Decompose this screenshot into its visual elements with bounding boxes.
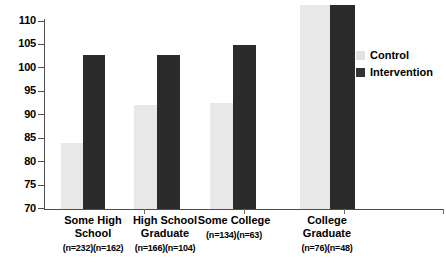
control-swatch-icon	[356, 51, 365, 60]
category-counts: (n=76)(n=48)	[268, 242, 386, 255]
legend-item-intervention: Intervention	[356, 64, 446, 81]
bar-control-high-school-graduate	[134, 105, 157, 209]
x-axis-category-labels: Some High School (n=232)(n=162) High Sch…	[44, 214, 446, 278]
bar-chart: 110 105 100 95 90 85 80 75 70	[0, 0, 446, 279]
y-axis-tick-label: 90	[2, 109, 36, 120]
y-axis-tick-label: 80	[2, 156, 36, 167]
x-axis-category-college-graduate: College Graduate (n=76)(n=48)	[268, 214, 386, 255]
bar-intervention-college-graduate	[330, 5, 355, 209]
legend-label-intervention: Intervention	[370, 67, 433, 78]
bar-control-some-college	[210, 103, 233, 209]
y-axis-tick-label: 110	[2, 15, 36, 26]
intervention-swatch-icon	[356, 68, 365, 77]
y-axis-labels: 110 105 100 95 90 85 80 75 70	[0, 0, 36, 279]
legend-label-control: Control	[370, 50, 409, 61]
category-name: College Graduate	[268, 214, 386, 240]
y-axis-tick-label: 85	[2, 132, 36, 143]
bars-layer	[44, 0, 446, 209]
y-axis-tick-label: 95	[2, 85, 36, 96]
y-axis-tick-label: 70	[2, 203, 36, 214]
y-axis-tick-label: 105	[2, 38, 36, 49]
bar-control-some-high-school	[61, 143, 83, 209]
chart-legend: Control Intervention	[356, 47, 446, 81]
category-counts: (n=166)(n=104)	[106, 242, 224, 255]
legend-item-control: Control	[356, 47, 446, 64]
bar-intervention-high-school-graduate	[157, 55, 180, 209]
bar-intervention-some-college	[233, 45, 256, 209]
bar-intervention-some-high-school	[83, 55, 105, 209]
y-axis-tick-label: 75	[2, 179, 36, 190]
bar-control-college-graduate	[300, 5, 330, 209]
y-axis-tick-label: 100	[2, 62, 36, 73]
